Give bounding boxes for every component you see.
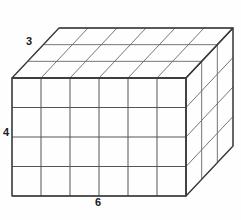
front-face-grid — [12, 78, 186, 196]
top-face-grid — [12, 28, 233, 78]
height-label: 4 — [3, 127, 9, 138]
width-label: 6 — [95, 197, 101, 208]
prism-figure: 3 4 6 — [0, 0, 241, 220]
depth-label: 3 — [26, 36, 32, 47]
prism-drawing — [0, 0, 241, 220]
